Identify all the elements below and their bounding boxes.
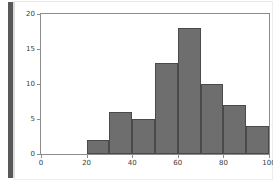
x-axis-tick-label: 80 — [219, 160, 228, 167]
histogram-bar — [87, 140, 110, 154]
histogram-figure: 05101520020406080100 — [15, 2, 272, 178]
y-axis-tick — [37, 49, 41, 50]
x-axis-tick — [178, 154, 179, 158]
histogram-bar — [155, 63, 178, 154]
page-bottom-edge — [13, 179, 273, 180]
y-axis-tick — [37, 84, 41, 85]
y-axis-tick-label: 20 — [26, 11, 35, 18]
y-axis-tick-label: 5 — [31, 116, 35, 123]
plot-area: 05101520020406080100 — [40, 13, 270, 155]
histogram-bar — [246, 126, 269, 154]
x-axis-tick-label: 40 — [128, 160, 137, 167]
bars-layer — [41, 14, 269, 154]
histogram-bar — [223, 105, 246, 154]
x-axis-tick-label: 100 — [262, 160, 273, 167]
x-axis-tick-label: 20 — [82, 160, 91, 167]
y-axis-tick-label: 15 — [26, 46, 35, 53]
y-axis-tick-label: 10 — [26, 81, 35, 88]
histogram-bar — [178, 28, 201, 154]
histogram-bar — [109, 112, 132, 154]
y-axis-tick — [37, 14, 41, 15]
screenshot-root: 05101520020406080100 — [0, 0, 273, 180]
y-axis-tick-label: 0 — [31, 151, 35, 158]
x-axis-tick — [269, 154, 270, 158]
histogram-bar — [201, 84, 224, 154]
x-axis-tick-label: 0 — [39, 160, 43, 167]
x-axis-tick — [87, 154, 88, 158]
x-axis-tick — [223, 154, 224, 158]
page-right-edge — [272, 1, 273, 179]
x-axis-tick — [132, 154, 133, 158]
histogram-bar — [132, 119, 155, 154]
x-axis-tick — [41, 154, 42, 158]
y-axis-tick — [37, 119, 41, 120]
x-axis-tick-label: 60 — [173, 160, 182, 167]
